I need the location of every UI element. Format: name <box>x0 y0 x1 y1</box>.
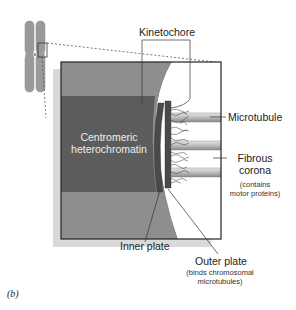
fibrous-corona-note-line2: motor proteins) <box>224 189 286 198</box>
outer-plate <box>165 101 171 188</box>
fibrous-corona-label: Fibrous corona <box>230 152 280 176</box>
fibrous-corona-note-line1: (contains <box>224 180 286 189</box>
panel-label: (b) <box>7 288 19 300</box>
fibrous-corona-line1: Fibrous <box>230 152 280 164</box>
microtubule-label: Microtubule <box>228 111 282 123</box>
centromeric-heterochromatin-label: Centromeric heterochromatin <box>64 131 154 155</box>
fibrous-corona-note: (contains motor proteins) <box>224 180 286 198</box>
outer-plate-note-line2: microtubules) <box>180 277 260 286</box>
outer-plate-label: Outer plate <box>195 255 247 267</box>
fibrous-corona-line2: corona <box>230 164 280 176</box>
outer-plate-note: (binds chromosomal microtubules) <box>180 268 260 286</box>
inner-plate-label: Inner plate <box>120 240 170 252</box>
centromeric-line: Centromeric <box>64 131 154 143</box>
outer-plate-note-line1: (binds chromosomal <box>180 268 260 277</box>
heterochromatin-line: heterochromatin <box>64 143 154 155</box>
kinetochore-label: Kinetochore <box>139 26 195 38</box>
